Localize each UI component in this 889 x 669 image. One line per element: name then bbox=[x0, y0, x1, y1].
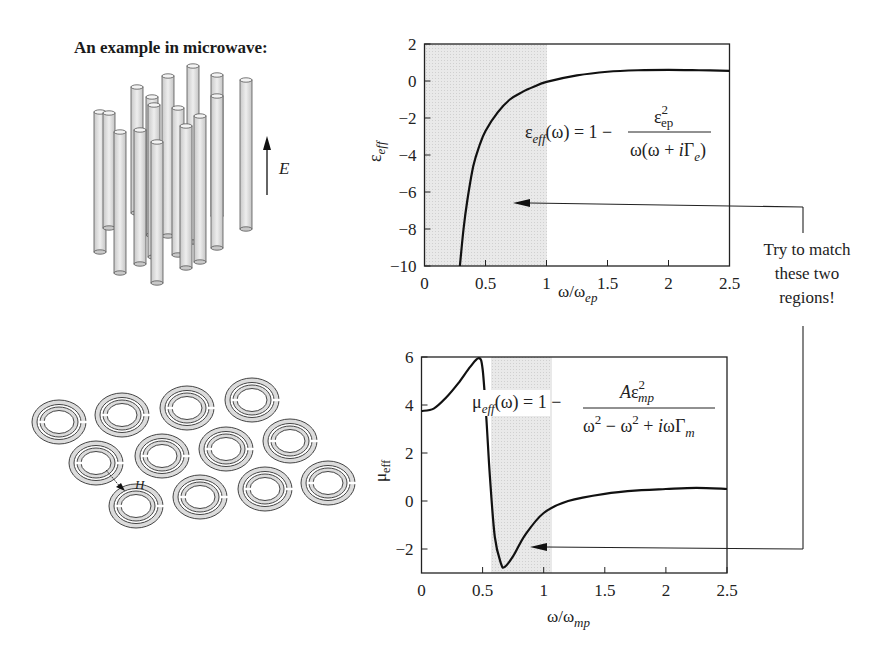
mu-plot-frame bbox=[422, 357, 728, 573]
h-field-label: H bbox=[134, 477, 145, 492]
x-tick-label: 0.5 bbox=[472, 581, 493, 600]
x-tick-label: 2 bbox=[662, 581, 671, 600]
svg-text:ω2 − ω2 + iωΓm: ω2 − ω2 + iωΓm bbox=[583, 412, 695, 440]
annotation-text: Try to match these two regions! bbox=[748, 238, 866, 310]
mu-chart: 6420−2 00.511.522.5 ω/ωmp μeff μeff(ω) =… bbox=[371, 348, 803, 630]
y-tick-label: 6 bbox=[405, 348, 414, 367]
wire-array-illustration bbox=[94, 64, 252, 285]
mu-curve bbox=[422, 358, 728, 568]
y-tick-label: −2 bbox=[398, 109, 416, 128]
x-tick-label: 0 bbox=[420, 274, 429, 293]
y-tick-label: −2 bbox=[395, 540, 413, 559]
x-tick-label: 0.5 bbox=[475, 274, 496, 293]
epsilon-shaded-region bbox=[425, 44, 547, 266]
x-tick-label: 2.5 bbox=[716, 581, 737, 600]
mu-pointer-arrow bbox=[546, 547, 803, 549]
split-ring-array-illustration bbox=[32, 378, 357, 528]
figure-canvas: E H 20−2−4−6−8−10 00.511.522.5 ω/ωep εef… bbox=[0, 0, 889, 669]
y-tick-label: 0 bbox=[405, 492, 414, 511]
svg-text:ε2ep: ε2ep bbox=[654, 102, 673, 130]
y-tick-label: 0 bbox=[408, 72, 417, 91]
y-tick-label: 4 bbox=[405, 396, 414, 415]
epsilon-pointer-arrow bbox=[530, 203, 803, 207]
y-tick-label: −4 bbox=[398, 146, 417, 165]
y-tick-label: −6 bbox=[398, 183, 416, 202]
epsilon-x-axis-label: ω/ωep bbox=[558, 282, 598, 305]
annotation-line: Try to match bbox=[748, 238, 866, 262]
x-tick-label: 1.5 bbox=[597, 274, 618, 293]
x-tick-label: 2 bbox=[664, 274, 673, 293]
epsilon-y-axis-label: εeff bbox=[365, 139, 388, 162]
mu-y-axis-label: μeff bbox=[371, 460, 393, 482]
epsilon-formula: εeff(ω) = 1 − ε2ep ω(ω + iΓe) bbox=[525, 102, 711, 164]
svg-text:ω(ω + iΓe): ω(ω + iΓe) bbox=[630, 140, 706, 164]
svg-text:Aε2mp: Aε2mp bbox=[619, 377, 654, 405]
y-tick-label: −10 bbox=[390, 257, 417, 276]
x-tick-label: 1.5 bbox=[594, 581, 615, 600]
x-tick-label: 1 bbox=[539, 581, 548, 600]
e-field-label: E bbox=[278, 159, 290, 178]
y-tick-label: −8 bbox=[398, 220, 416, 239]
mu-x-axis-label: ω/ωmp bbox=[547, 607, 590, 630]
epsilon-chart: 20−2−4−6−8−10 00.511.522.5 ω/ωep εeff εe… bbox=[365, 35, 803, 305]
annotation-line: these two bbox=[748, 262, 866, 286]
y-tick-label: 2 bbox=[405, 444, 414, 463]
x-tick-label: 0 bbox=[417, 581, 426, 600]
x-tick-label: 2.5 bbox=[719, 274, 740, 293]
e-field-arrow-icon bbox=[263, 136, 271, 195]
y-tick-label: 2 bbox=[408, 35, 417, 54]
x-tick-label: 1 bbox=[542, 274, 551, 293]
annotation-line: regions! bbox=[748, 286, 866, 310]
